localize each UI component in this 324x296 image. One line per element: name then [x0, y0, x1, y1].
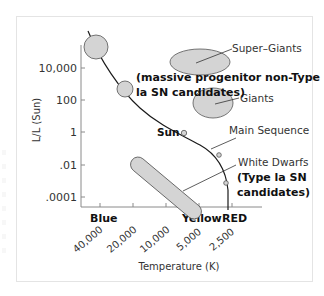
massive-progenitor-note-line2: la SN candidates) — [136, 86, 245, 99]
main-sequence-marker — [217, 153, 222, 158]
white-dwarf-note-line1: (Type la SN — [237, 171, 307, 184]
x-tick-label: 5,000 — [174, 226, 203, 253]
main-sequence-label: Main Sequence — [229, 124, 309, 136]
x-color-label-red: RED — [222, 212, 247, 225]
y-tick-label: 100 — [56, 94, 77, 107]
x-color-label-blue: Blue — [90, 212, 117, 225]
y-tick-label: 1 — [70, 126, 77, 139]
y-tick-label: 10,000 — [39, 62, 78, 75]
x-tick-label: 20,000 — [105, 224, 139, 255]
main-sequence-marker — [224, 181, 229, 186]
x-tick-label: 10,000 — [138, 224, 172, 255]
sun-label: Sun — [157, 126, 180, 138]
white-dwarf-note-line2: candidates) — [237, 186, 310, 199]
white-dwarfs-label: White Dwarfs — [238, 156, 308, 168]
massive-star-marker — [117, 81, 133, 97]
x-tick-label: 40,000 — [71, 224, 105, 255]
x-axis-label: Temperature (K) — [138, 261, 220, 272]
sun-marker — [181, 130, 186, 135]
y-tick-label: .0001 — [46, 191, 78, 204]
white-dwarfs-region — [127, 154, 204, 222]
x-tick-labels: 40,000 20,000 10,000 5,000 2,500 — [71, 224, 236, 255]
giants-label: Giants — [240, 92, 274, 104]
x-tick-label: 2,500 — [207, 226, 236, 253]
massive-star-marker — [84, 35, 108, 59]
y-axis-label: L/L (Sun) — [31, 98, 42, 143]
y-tick-labels: 10,000 100 1 .01 .0001 — [39, 62, 78, 204]
y-tick-label: .01 — [60, 159, 78, 172]
hr-diagram: 10,000 100 1 .01 .0001 L/L (Sun) Blue Ye… — [0, 0, 324, 296]
massive-progenitor-note-line1: (massive progenitor non-Type — [136, 71, 320, 84]
super-giants-label: Super–Giants — [232, 42, 302, 54]
